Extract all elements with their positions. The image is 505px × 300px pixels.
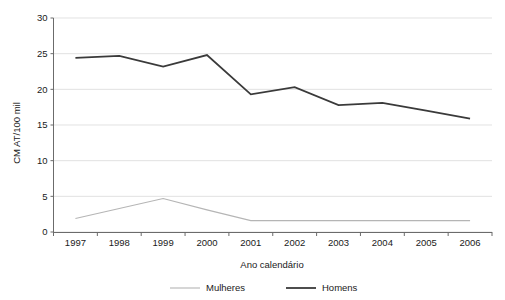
y-tick-label: 5 [42, 191, 47, 202]
y-axis-title: CM AT/100 mil [11, 102, 22, 164]
x-tick-label: 1997 [65, 237, 86, 248]
series-line-mulheres [75, 198, 470, 220]
y-axis-ticks: 051015202530 [37, 12, 54, 237]
x-tick-label: 1998 [109, 237, 130, 248]
x-tick-label: 2002 [284, 237, 305, 248]
series-line-homens [75, 55, 470, 118]
y-tick-label: 0 [42, 226, 47, 237]
legend-label-homens: Homens [322, 282, 358, 293]
x-tick-label: 2000 [196, 237, 217, 248]
x-tick-label: 1999 [153, 237, 174, 248]
x-axis-ticks: 1997199819992000200120022003200420052006 [54, 232, 493, 248]
chart-canvas: 051015202530 199719981999200020012002200… [0, 0, 505, 300]
legend: MulheresHomens [170, 282, 358, 293]
x-tick-label: 2004 [372, 237, 393, 248]
y-tick-label: 15 [37, 119, 48, 130]
data-series [75, 55, 470, 220]
x-tick-label: 2005 [416, 237, 437, 248]
legend-label-mulheres: Mulheres [206, 282, 245, 293]
y-tick-label: 25 [37, 48, 48, 59]
x-axis-title: Ano calendário [240, 259, 303, 270]
y-tick-label: 30 [37, 12, 48, 23]
y-tick-label: 20 [37, 84, 48, 95]
y-tick-label: 10 [37, 155, 48, 166]
gridlines [54, 18, 493, 232]
x-tick-label: 2003 [328, 237, 349, 248]
x-tick-label: 2006 [460, 237, 481, 248]
x-tick-label: 2001 [240, 237, 261, 248]
line-chart: 051015202530 199719981999200020012002200… [0, 0, 505, 300]
